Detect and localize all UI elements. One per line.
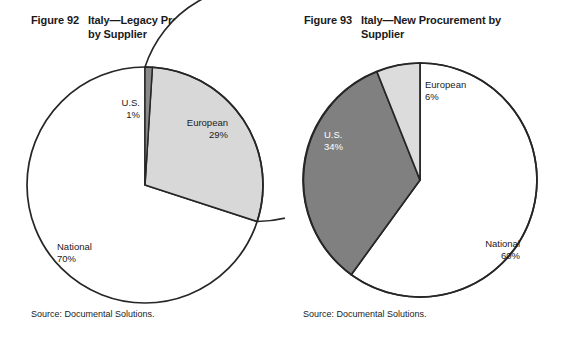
figure-92-source: Source: Documental Solutions. [31,309,155,320]
figure-92-pie-chart: U.S. 1% European 29% National 70% [0,0,285,338]
label-national-60pct: National 60% [440,238,520,261]
label-european-6pct: European 6% [425,79,511,102]
figure-93-panel: Figure 93 Italy—New Procurement by Suppl… [285,0,570,338]
figure-93-pie-svg [285,0,570,338]
figure-93-pie-chart: European 6% U.S. 34% National 60% [285,0,570,338]
label-national-70pct: National 70% [57,241,137,264]
figure-93-source: Source: Documental Solutions. [303,309,427,320]
label-us-34pct: U.S. 34% [324,129,394,152]
label-us-1pct: U.S. 1% [76,97,140,120]
figure-92-pie-svg [0,0,285,338]
figures-page: Figure 92 Italy—Legacy Procurement by Su… [0,0,570,338]
figure-92-panel: Figure 92 Italy—Legacy Procurement by Su… [0,0,285,338]
label-european-29pct: European 29% [160,117,228,140]
